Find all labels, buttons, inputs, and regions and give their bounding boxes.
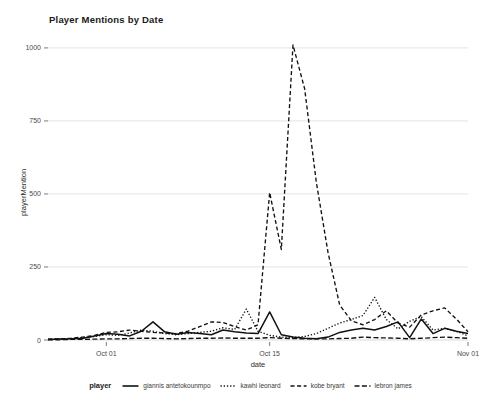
legend-swatch [354,382,371,390]
legend-swatch [290,382,307,390]
y-tick-label: 0 [37,337,41,344]
y-tick-label: 250 [29,263,41,270]
y-tick-label: 500 [29,190,41,197]
y-tick-label: 750 [29,117,41,124]
legend-label: lebron james [375,382,412,389]
legend-label: giannis antetokounmpo [143,382,210,389]
legend-swatch [122,382,139,390]
series-line [48,45,468,339]
legend-swatch [220,382,237,390]
chart-container: Player Mentions by Date 02505007501000Oc… [0,0,501,409]
legend-item-kawhi-leonard[interactable]: kawhi leonard [220,382,281,390]
series-line [48,337,468,340]
legend-label: kawhi leonard [241,382,281,389]
y-axis-title: playerMention [19,169,28,216]
legend-label: kobe bryant [311,382,345,389]
x-axis-title: date [251,360,266,369]
legend-item-lebron-james[interactable]: lebron james [354,382,412,390]
legend-title: player [89,381,111,390]
legend-item-giannis-antetokounmpo[interactable]: giannis antetokounmpo [122,382,210,390]
chart-plot-area: 02505007501000Oct 01Oct 15Nov 01dateplay… [0,0,501,409]
legend-item-kobe-bryant[interactable]: kobe bryant [290,382,345,390]
y-tick-label: 1000 [25,44,41,51]
chart-legend: player giannis antetokounmpokawhi leonar… [0,381,501,390]
x-tick-label: Oct 15 [259,350,280,357]
x-tick-label: Oct 01 [96,350,117,357]
x-tick-label: Nov 01 [457,350,479,357]
